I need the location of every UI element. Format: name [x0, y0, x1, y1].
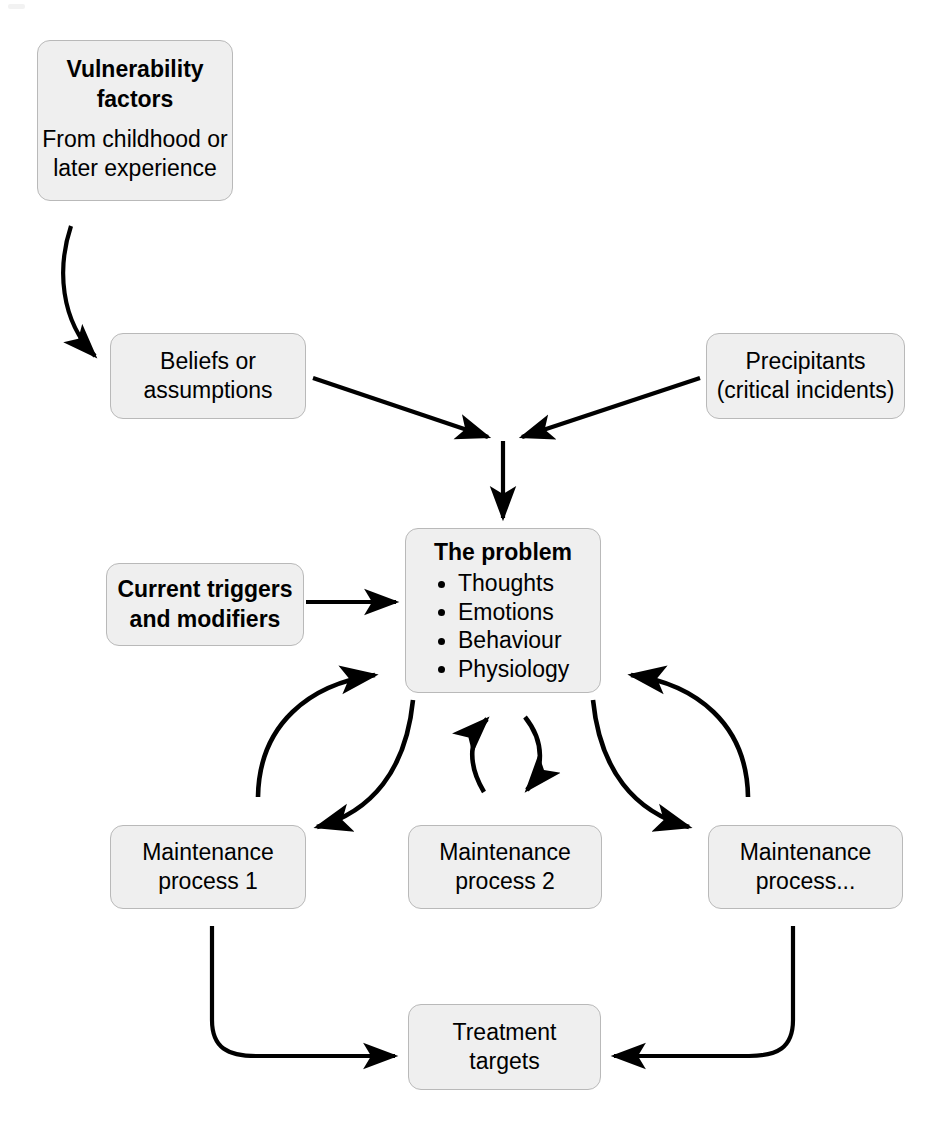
precipitants-line1: Precipitants — [745, 347, 865, 376]
arrow-problem-to-maintenance1 — [317, 700, 413, 827]
problem-bullet-1: Emotions — [458, 599, 554, 625]
problem-bullet-list: Thoughts Emotions Behaviour Physiology — [428, 569, 569, 683]
arrow-precipitants-to-problem — [522, 378, 700, 437]
problem-bullet-3: Physiology — [458, 656, 569, 682]
list-item: Physiology — [458, 655, 569, 684]
node-maintenance-process-1[interactable]: Maintenance process 1 — [110, 825, 306, 909]
node-precipitants[interactable]: Precipitants (critical incidents) — [706, 333, 905, 419]
maintenance1-line2: process 1 — [158, 867, 258, 896]
node-vulnerability-factors[interactable]: Vulnerability factors From childhood or … — [37, 40, 233, 201]
list-item: Thoughts — [458, 569, 569, 598]
maintenance3-line1: Maintenance — [740, 838, 872, 867]
precipitants-line2: (critical incidents) — [717, 376, 895, 405]
problem-bullet-2: Behaviour — [458, 627, 562, 653]
bullet-dot-icon — [438, 666, 445, 673]
arrow-maintenance1-to-problem — [258, 675, 375, 797]
scan-artifact — [8, 4, 25, 9]
bullet-dot-icon — [438, 638, 445, 645]
node-the-problem[interactable]: The problem Thoughts Emotions Behaviour … — [405, 528, 601, 693]
arrow-problem-to-maintenance2 — [525, 717, 540, 790]
arrow-maintenance3-to-problem — [631, 675, 748, 797]
node-maintenance-process-other[interactable]: Maintenance process... — [708, 825, 903, 909]
maintenance1-line1: Maintenance — [142, 838, 274, 867]
arrow-problem-to-maintenance3 — [593, 700, 689, 827]
maintenance2-line1: Maintenance — [439, 838, 571, 867]
node-treatment-targets[interactable]: Treatment targets — [408, 1004, 601, 1090]
formulation-diagram: Vulnerability factors From childhood or … — [0, 0, 940, 1139]
maintenance2-line2: process 2 — [455, 867, 555, 896]
vulnerability-title-line1: Vulnerability — [66, 55, 203, 84]
problem-title: The problem — [428, 538, 572, 567]
maintenance3-line2: process... — [756, 867, 856, 896]
arrow-maintenance1-to-treatment — [212, 926, 395, 1056]
arrow-maintenance3-to-treatment — [614, 926, 793, 1056]
treatment-line2: targets — [469, 1047, 539, 1076]
arrow-maintenance2-to-problem — [472, 719, 487, 792]
list-item: Behaviour — [458, 626, 569, 655]
vulnerability-body-line1: From childhood or — [42, 125, 227, 154]
bullet-dot-icon — [438, 609, 445, 616]
bullet-dot-icon — [438, 581, 445, 588]
treatment-line1: Treatment — [453, 1018, 557, 1047]
vulnerability-title-line2: factors — [66, 85, 203, 114]
triggers-line1: Current triggers — [117, 575, 292, 604]
triggers-line2: and modifiers — [130, 605, 281, 634]
problem-bullet-0: Thoughts — [458, 570, 554, 596]
beliefs-line2: assumptions — [143, 376, 272, 405]
node-current-triggers-and-modifiers[interactable]: Current triggers and modifiers — [106, 563, 304, 646]
arrow-beliefs-to-problem — [313, 378, 488, 437]
node-maintenance-process-2[interactable]: Maintenance process 2 — [408, 825, 602, 909]
list-item: Emotions — [458, 598, 569, 627]
beliefs-line1: Beliefs or — [160, 347, 256, 376]
vulnerability-body-line2: later experience — [53, 154, 217, 183]
arrow-vulnerability-to-beliefs — [63, 226, 95, 356]
vulnerability-title: Vulnerability factors — [66, 55, 203, 114]
node-beliefs-or-assumptions[interactable]: Beliefs or assumptions — [110, 333, 306, 419]
